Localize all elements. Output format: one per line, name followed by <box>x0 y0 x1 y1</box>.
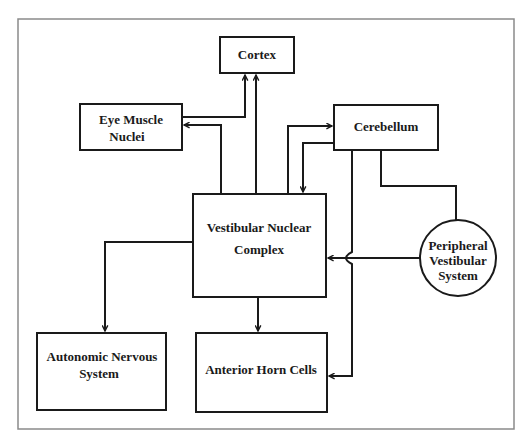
vestibular-pathway-diagram: Cortex Eye Muscle Nuclei Cerebellum Vest… <box>0 0 529 445</box>
eye-muscle-nuclei-label-line1: Eye Muscle <box>99 112 163 127</box>
node-vestibular-nuclear-complex: Vestibular Nuclear Complex <box>193 194 326 297</box>
anterior-horn-cells-label: Anterior Horn Cells <box>205 362 317 377</box>
node-peripheral-vestibular-system: Peripheral Vestibular System <box>420 220 496 296</box>
ans-label-line1: Autonomic Nervous <box>47 349 158 364</box>
pvs-label-line1: Peripheral <box>428 238 488 253</box>
pvs-label-line2: Vestibular <box>429 253 487 268</box>
eye-muscle-nuclei-label-line2: Nuclei <box>109 129 145 144</box>
node-autonomic-nervous-system: Autonomic Nervous System <box>37 333 166 410</box>
vnc-label-line1: Vestibular Nuclear <box>207 220 312 235</box>
node-cortex: Cortex <box>220 37 294 73</box>
cortex-label: Cortex <box>238 47 277 62</box>
node-cerebellum: Cerebellum <box>334 105 438 150</box>
ans-label-line2: System <box>79 366 119 381</box>
node-eye-muscle-nuclei: Eye Muscle Nuclei <box>80 104 182 150</box>
pvs-label-line3: System <box>438 268 478 283</box>
node-anterior-horn-cells: Anterior Horn Cells <box>196 333 327 412</box>
cerebellum-label: Cerebellum <box>354 119 419 134</box>
vnc-label-line2: Complex <box>234 242 284 257</box>
